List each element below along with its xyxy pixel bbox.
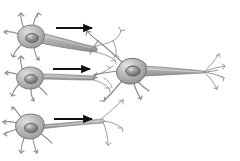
- nucleus-icon: [24, 123, 38, 133]
- axon: [144, 66, 205, 76]
- nucleus-icon: [25, 74, 38, 83]
- nucleus-highlight: [27, 76, 31, 79]
- axon-terminal-group: [93, 66, 113, 92]
- nucleus-highlight: [27, 125, 31, 128]
- axon-terminal-group: [94, 27, 125, 64]
- nucleus-highlight: [28, 35, 32, 38]
- axon-terminal-group: [101, 100, 123, 145]
- figure-canvas: [0, 0, 240, 161]
- presynaptic-neuron-bottom: [3, 100, 123, 153]
- nucleus-icon: [126, 66, 140, 76]
- nucleus-highlight: [128, 68, 133, 71]
- presynaptic-neuron-top: [4, 13, 125, 64]
- axon-terminal-group: [204, 54, 225, 89]
- nucleus-icon: [26, 33, 39, 42]
- neuron-convergence-figure: [0, 0, 240, 161]
